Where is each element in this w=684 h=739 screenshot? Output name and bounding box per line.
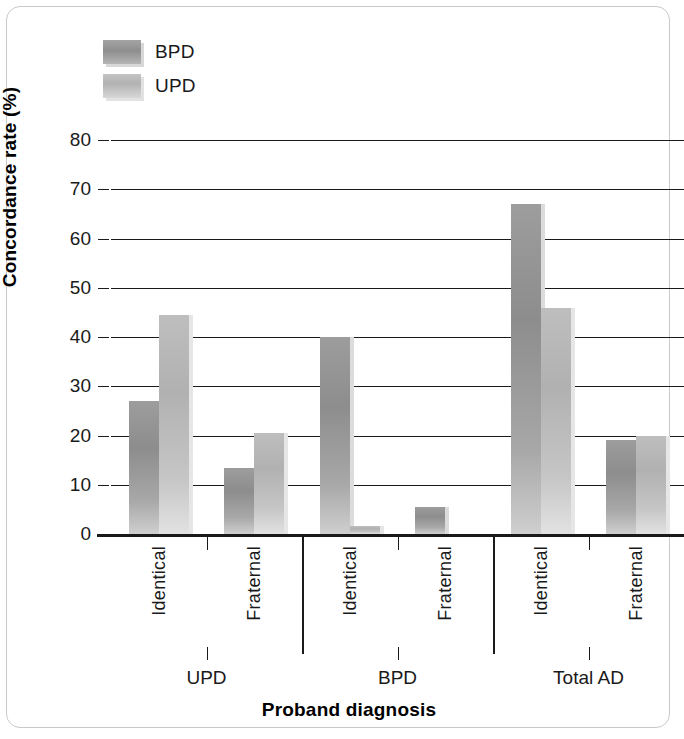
- y-axis-tick-label: 50: [70, 277, 91, 299]
- category-separator: [493, 536, 495, 654]
- legend-swatch-upd-icon: [103, 74, 141, 98]
- x-axis-group-label: UPD: [186, 667, 226, 689]
- bar-bpd-identical-2: [320, 337, 350, 534]
- y-axis-tick-label: 60: [70, 228, 91, 250]
- y-axis-tick-label: 0: [80, 523, 91, 545]
- y-axis-tick: [98, 140, 109, 141]
- y-axis-tick: [98, 337, 109, 338]
- y-axis-tick: [98, 386, 109, 387]
- y-axis-tick: [98, 436, 109, 437]
- bar-bpd-fraternal-1: [224, 468, 254, 534]
- gridline: [111, 485, 684, 486]
- bar-upd-identical-4: [541, 308, 571, 534]
- bar-bpd-identical-0: [129, 401, 159, 534]
- y-axis-tick-label: 40: [70, 326, 91, 348]
- group-axis: UPDBPDTotal AD: [97, 647, 684, 697]
- gridline: [111, 189, 684, 190]
- plot-area: 80706050403020100: [111, 140, 684, 534]
- x-axis-sub-label: Identical: [149, 546, 170, 616]
- category-separator: [207, 536, 209, 550]
- x-axis-sub-label: Fraternal: [626, 546, 647, 621]
- x-axis-group-label: Total AD: [553, 667, 624, 689]
- category-axis: IdenticalFraternalIdenticalFraternalIden…: [97, 536, 684, 654]
- x-axis-sub-label: Identical: [340, 546, 361, 616]
- y-axis-tick-label: 30: [70, 375, 91, 397]
- bar-bpd-fraternal-5: [606, 440, 636, 534]
- legend-item-upd: UPD: [103, 69, 303, 103]
- bar-upd-identical-0: [159, 315, 189, 534]
- bar-upd-identical-2: [350, 526, 380, 534]
- y-axis-tick: [98, 288, 109, 289]
- group-tick: [398, 647, 400, 660]
- gridline: [111, 337, 684, 338]
- y-axis-title: Concordance rate (%): [0, 37, 21, 337]
- x-axis-sub-label: Identical: [531, 546, 552, 616]
- y-axis-tick-label: 20: [70, 425, 91, 447]
- gridline: [111, 386, 684, 387]
- category-separator: [302, 536, 304, 654]
- y-axis-tick: [98, 485, 109, 486]
- bar-bpd-identical-4: [511, 204, 541, 534]
- chart-legend: BPD UPD: [103, 35, 303, 103]
- bar-upd-fraternal-1: [254, 433, 284, 534]
- y-axis-tick: [98, 189, 109, 190]
- x-axis-title: Proband diagnosis: [7, 699, 684, 721]
- gridline: [111, 140, 684, 141]
- bar-bpd-fraternal-3: [415, 507, 445, 534]
- y-axis-tick-label: 10: [70, 474, 91, 496]
- bar-upd-fraternal-5: [636, 436, 666, 535]
- legend-label-upd: UPD: [155, 75, 196, 97]
- x-axis-sub-label: Fraternal: [244, 546, 265, 621]
- gridline: [111, 239, 684, 240]
- gridline: [111, 436, 684, 437]
- x-axis-sub-label: Fraternal: [435, 546, 456, 621]
- y-axis-tick-label: 80: [70, 129, 91, 151]
- figure-frame: BPD UPD Concordance rate (%) 80706050403…: [6, 6, 670, 728]
- y-axis-tick-label: 70: [70, 178, 91, 200]
- gridline: [111, 288, 684, 289]
- category-separator: [589, 536, 591, 550]
- y-axis-tick: [98, 239, 109, 240]
- x-axis-group-label: BPD: [378, 667, 417, 689]
- category-separator: [398, 536, 400, 550]
- legend-swatch-bpd-icon: [103, 40, 141, 64]
- group-tick: [207, 647, 209, 660]
- group-tick: [589, 647, 591, 660]
- legend-label-bpd: BPD: [155, 41, 195, 63]
- legend-item-bpd: BPD: [103, 35, 303, 69]
